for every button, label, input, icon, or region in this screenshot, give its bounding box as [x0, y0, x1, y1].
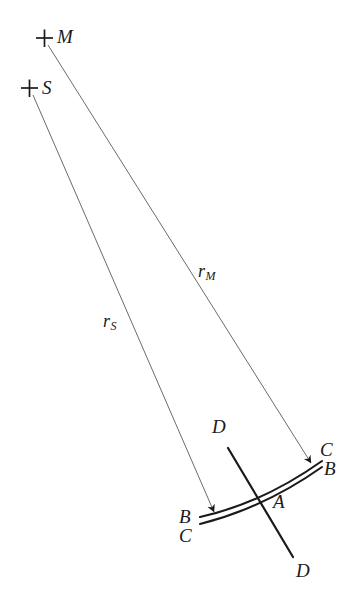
label-moon: M	[57, 27, 73, 46]
vector-r-moon	[48, 45, 311, 463]
label-r-moon-base: r	[198, 261, 205, 281]
label-top-d: D	[212, 417, 226, 436]
label-bottom-d: D	[296, 561, 310, 580]
sun-cross-icon	[21, 80, 38, 98]
tidal-geometry-diagram: M S rM rS C B B C D D A	[0, 0, 352, 601]
moon-cross-icon	[36, 30, 53, 48]
vector-r-sun	[33, 95, 214, 512]
diagram-canvas	[0, 0, 352, 601]
label-left-c: C	[179, 526, 192, 545]
label-r-moon: rM	[198, 262, 216, 282]
arc-b-b	[200, 461, 322, 517]
label-r-sun-sub: S	[110, 319, 117, 333]
label-right-b: B	[324, 459, 336, 478]
label-center-a: A	[273, 492, 285, 511]
label-r-sun: rS	[103, 312, 117, 332]
label-sun: S	[42, 78, 52, 97]
label-r-moon-sub: M	[205, 269, 216, 283]
label-right-c: C	[320, 440, 333, 459]
label-r-sun-base: r	[103, 311, 110, 331]
label-left-b: B	[179, 507, 191, 526]
